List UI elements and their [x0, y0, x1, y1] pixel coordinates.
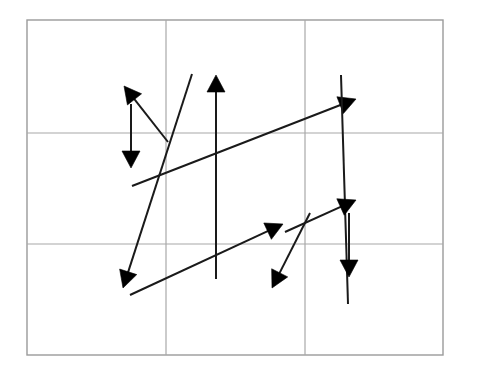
arrow-set [120, 74, 358, 304]
figure-canvas [0, 0, 478, 378]
frame-rect [27, 20, 443, 355]
grid-frame [27, 20, 443, 355]
arrow-up-left-short-head [124, 86, 142, 105]
arrow-up-left-short-shaft [132, 96, 168, 142]
arrow-down-vertical-left [122, 104, 140, 168]
grid-lines [27, 20, 443, 355]
arrow-grid-diagram [0, 0, 478, 378]
arrow-down-left-steep-long-head [120, 269, 137, 288]
arrow-up-vertical-long-center-head [207, 75, 225, 92]
arrow-down-vertical-right [340, 213, 358, 277]
arrow-down-vertical-right-head [340, 260, 358, 277]
arrow-down-vertical-left-head [122, 151, 140, 168]
line-diagonal-upper-right-long-shaft [132, 104, 344, 186]
arrow-up-right-lower [130, 223, 283, 295]
arrow-up-right-lower-shaft [130, 230, 271, 295]
arrow-up-vertical-long-center [207, 75, 225, 279]
arrow-up-right-short-right-shaft [285, 205, 344, 232]
